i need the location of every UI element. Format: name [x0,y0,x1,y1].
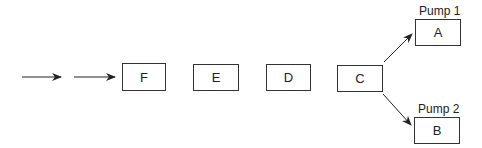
stage-label-f: F [140,70,148,85]
pump-2-caption: Pump 2 [418,102,459,116]
connector-layer [0,0,482,148]
stage-label-c: C [355,71,364,86]
stage-label-e: E [212,70,221,85]
output-box-a: A [415,19,461,46]
flow-diagram: F E D C Pump 1 A Pump 2 B [0,0,482,148]
output-box-b: B [414,117,460,144]
output-label-a: A [434,25,443,40]
arrow-c-to-a [384,34,412,62]
pump-1-caption: Pump 1 [419,4,460,18]
output-label-b: B [433,123,442,138]
stage-box-f: F [122,63,166,91]
arrow-c-to-b [383,94,411,125]
stage-box-e: E [193,64,239,91]
stage-box-c: C [337,65,383,92]
stage-label-d: D [284,70,293,85]
stage-box-d: D [266,64,311,91]
